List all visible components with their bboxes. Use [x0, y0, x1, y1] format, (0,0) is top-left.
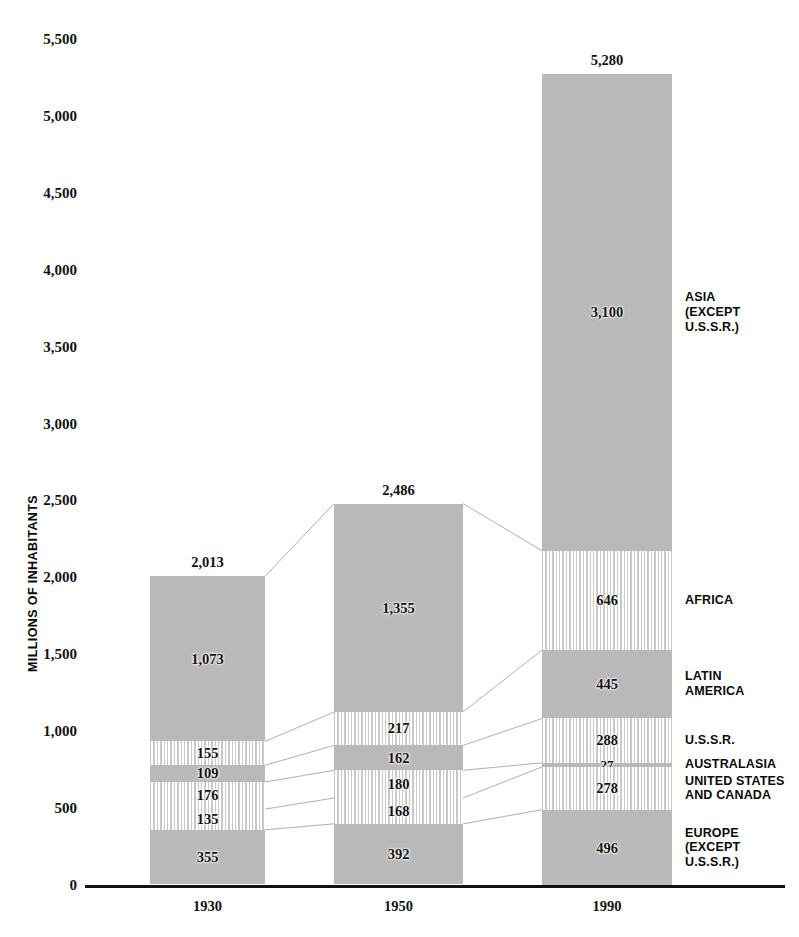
- connector-line: [265, 504, 334, 577]
- x-axis-baseline: [85, 885, 785, 888]
- bar-1990[interactable]: 3,10064644528827278496: [542, 74, 672, 886]
- segment-value-label: 288: [596, 733, 618, 748]
- segment-value-label: 180: [388, 777, 410, 792]
- segment-value-label: 496: [596, 841, 618, 856]
- legend-item-latin-america[interactable]: LATIN AMERICA: [685, 669, 797, 699]
- legend-item-asia-except-u-s-s-r[interactable]: ASIA (EXCEPT U.S.S.R.): [685, 290, 797, 334]
- connector-line: [463, 763, 542, 771]
- segment-1950-africa[interactable]: 217: [334, 712, 463, 745]
- legend-item-u-s-s-r[interactable]: U.S.S.R.: [685, 733, 797, 748]
- bar-total-1930: 2,013: [150, 554, 265, 571]
- y-tick-5500: 5,500: [0, 31, 77, 48]
- y-tick-5000: 5,000: [0, 108, 77, 125]
- segment-1930-united-states-and-canada[interactable]: 135: [150, 809, 265, 830]
- segment-value-label: 392: [388, 847, 410, 862]
- connector-line: [463, 504, 542, 551]
- segment-value-label: 168: [388, 804, 410, 819]
- segment-1930-u-s-s-r[interactable]: 176: [150, 782, 265, 809]
- connector-line: [265, 824, 334, 830]
- connector-line: [265, 712, 334, 741]
- y-tick-0: 0: [0, 877, 77, 894]
- y-tick-3500: 3,500: [0, 339, 77, 356]
- segment-1930-asia-except-u-s-s-r[interactable]: 1,073: [150, 576, 265, 741]
- connector-line: [463, 767, 542, 798]
- segment-1990-europe-except-u-s-s-r[interactable]: 496: [542, 810, 672, 886]
- bar-total-1990: 5,280: [542, 52, 672, 69]
- segment-1990-latin-america[interactable]: 445: [542, 650, 672, 718]
- segment-value-label: 155: [197, 746, 219, 761]
- segment-value-label: 135: [197, 812, 219, 827]
- segment-1930-latin-america[interactable]: 109: [150, 765, 265, 782]
- connector-line: [463, 810, 542, 824]
- segment-1950-asia-except-u-s-s-r[interactable]: 1,355: [334, 504, 463, 712]
- bar-1950[interactable]: 1,355217162180168392: [334, 504, 463, 886]
- segment-1990-africa[interactable]: 646: [542, 551, 672, 650]
- y-tick-4500: 4,500: [0, 185, 77, 202]
- segment-value-label: 217: [388, 721, 410, 736]
- connector-line: [463, 718, 542, 745]
- legend-item-africa[interactable]: AFRICA: [685, 593, 797, 608]
- segment-1950-europe-except-u-s-s-r[interactable]: 392: [334, 824, 463, 884]
- y-tick-1000: 1,000: [0, 723, 77, 740]
- segment-value-label: 1,355: [382, 601, 415, 616]
- segment-value-label: 646: [596, 593, 618, 608]
- bar-total-1950: 2,486: [334, 482, 463, 499]
- y-tick-500: 500: [0, 800, 77, 817]
- legend-item-australasia[interactable]: AUSTRALASIA: [685, 757, 797, 772]
- segment-1930-europe-except-u-s-s-r[interactable]: 355: [150, 830, 265, 885]
- bar-1930[interactable]: 1,073155109176135355: [150, 576, 265, 886]
- x-tick-1950: 1950: [334, 898, 463, 915]
- x-tick-1990: 1990: [542, 898, 672, 915]
- population-stacked-bar-chart: MILLIONS OF INHABITANTS 05001,0001,5002,…: [0, 0, 799, 937]
- segment-value-label: 355: [197, 850, 219, 865]
- segment-1930-africa[interactable]: 155: [150, 741, 265, 765]
- x-tick-1930: 1930: [150, 898, 265, 915]
- segment-value-label: 445: [596, 677, 618, 692]
- connector-line: [265, 770, 334, 782]
- y-tick-4000: 4,000: [0, 262, 77, 279]
- segment-value-label: 1,073: [191, 652, 224, 667]
- segment-1950-latin-america[interactable]: 162: [334, 745, 463, 770]
- segment-1950-united-states-and-canada[interactable]: 168: [334, 798, 463, 824]
- connector-line: [265, 745, 334, 765]
- segment-value-label: 109: [197, 766, 219, 781]
- legend-item-united-states-and-canada[interactable]: UNITED STATES AND CANADA: [685, 774, 797, 804]
- connector-line: [463, 650, 542, 712]
- segment-1950-u-s-s-r[interactable]: 180: [334, 770, 463, 798]
- y-tick-2500: 2,500: [0, 492, 77, 509]
- y-tick-2000: 2,000: [0, 569, 77, 586]
- segment-value-label: 176: [197, 788, 219, 803]
- segment-value-label: 3,100: [591, 305, 624, 320]
- y-tick-3000: 3,000: [0, 416, 77, 433]
- legend-item-europe-except-u-s-s-r[interactable]: EUROPE (EXCEPT U.S.S.R.): [685, 826, 797, 870]
- segment-value-label: 278: [596, 781, 618, 796]
- segment-value-label: 162: [388, 751, 410, 766]
- segment-1990-asia-except-u-s-s-r[interactable]: 3,100: [542, 74, 672, 551]
- y-tick-1500: 1,500: [0, 646, 77, 663]
- connector-line: [265, 798, 334, 809]
- segment-1990-united-states-and-canada[interactable]: 278: [542, 767, 672, 810]
